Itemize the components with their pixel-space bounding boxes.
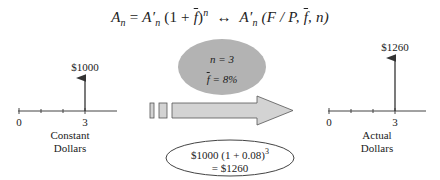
left-value-label: $1000 [70, 61, 100, 74]
left-tick-3: 3 [79, 116, 91, 129]
param-n: n = 3 [190, 53, 254, 66]
conversion-arrow [150, 96, 293, 125]
calc-line2: = $1260 [170, 162, 290, 175]
left-caption-line1: Constant [40, 129, 100, 142]
right-value-label: $1260 [380, 41, 410, 54]
left-caption: Constant Dollars [40, 129, 100, 155]
param-f-value: = 8% [210, 73, 238, 85]
calc-line1: $1000 (1 + 0.08) [191, 149, 265, 161]
right-tick-0: 0 [323, 116, 335, 129]
right-caption: Actual Dollars [347, 129, 407, 155]
right-caption-line1: Actual [347, 129, 407, 142]
param-f: f = 8% [190, 73, 254, 86]
right-caption-line2: Dollars [347, 142, 407, 155]
calculation-text: $1000 (1 + 0.08)3 = $1260 [170, 145, 290, 175]
parameter-ellipse [178, 39, 266, 95]
left-tick-0: 0 [13, 116, 25, 129]
right-tick-3: 3 [389, 116, 401, 129]
constant-dollars-timeline [18, 78, 117, 114]
calc-exp: 3 [265, 147, 269, 156]
actual-dollars-timeline [328, 58, 426, 114]
left-caption-line2: Dollars [40, 142, 100, 155]
